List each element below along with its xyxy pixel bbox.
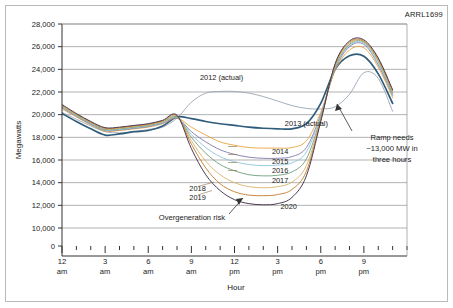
x-tick-label: 9: [189, 257, 193, 266]
ramp-needs-line2: ~13,000 MW in: [366, 144, 417, 153]
series-inline-labels: 2012 (actual)2013 (actual)20142015201620…: [189, 73, 328, 211]
y-tick-label: 28,000: [32, 20, 55, 29]
ramp-needs-annotation: Ramp needs ~13,000 MW in three hours: [335, 104, 418, 164]
x-axis-title: Hour: [227, 283, 245, 292]
axes: [62, 24, 407, 256]
x-tick-label: am: [100, 267, 111, 276]
series-line-2019: [62, 39, 393, 196]
x-axis-ticks: 12am3am6am9am12pm3pm6pm9pm: [57, 246, 407, 276]
x-tick-label: 6: [146, 257, 150, 266]
series-line-2018: [62, 40, 393, 188]
x-tick-label: pm: [229, 267, 240, 276]
chart-figure: ARRL1699 010,00012,00014,00016,00018,000…: [0, 0, 453, 308]
y-tick-label: 24,000: [32, 65, 55, 74]
series-label-2020: 2020: [281, 202, 297, 211]
y-tick-label: 14,000: [32, 178, 55, 187]
y-tick-label: 18,000: [32, 133, 55, 142]
overgeneration-risk-label: Overgeneration risk: [159, 213, 225, 222]
series-label-2013-actual-: 2013 (actual): [285, 119, 328, 128]
series-label-2018: 2018: [189, 184, 205, 193]
series-label-2019: 2019: [189, 193, 205, 202]
x-tick-label: pm: [272, 267, 283, 276]
series-label-2014: 2014: [272, 147, 288, 156]
series-label-2016: 2016: [272, 166, 288, 175]
duck-curve-chart: 010,00012,00014,00016,00018,00020,00022,…: [0, 0, 453, 308]
x-tick-label: 12: [58, 257, 66, 266]
y-tick-label: 12,000: [32, 201, 55, 210]
x-tick-label: pm: [315, 267, 326, 276]
y-tick-label: 0: [51, 242, 55, 251]
x-tick-label: 12: [230, 257, 238, 266]
y-tick-label: 10,000: [32, 224, 55, 233]
ramp-needs-line3: three hours: [373, 155, 412, 164]
y-axis-ticks: 010,00012,00014,00016,00018,00020,00022,…: [32, 20, 62, 251]
x-tick-label: am: [143, 267, 154, 276]
ramp-needs-line1: Ramp needs: [370, 133, 413, 142]
x-tick-label: 6: [319, 257, 323, 266]
series-label-2012-actual-: 2012 (actual): [200, 73, 243, 82]
y-tick-label: 20,000: [32, 110, 55, 119]
series-label-2015: 2015: [272, 157, 288, 166]
x-tick-label: 3: [276, 257, 280, 266]
series-label-2017: 2017: [272, 176, 288, 185]
y-tick-label: 16,000: [32, 156, 55, 165]
x-tick-label: 9: [362, 257, 366, 266]
y-tick-label: 22,000: [32, 88, 55, 97]
y-axis-title: Megawatts: [14, 121, 23, 160]
x-tick-label: 3: [103, 257, 107, 266]
x-tick-label: am: [186, 267, 197, 276]
y-tick-label: 26,000: [32, 42, 55, 51]
series-lines: [62, 38, 393, 205]
x-tick-label: am: [57, 267, 68, 276]
series-line-2013-actual-: [62, 54, 393, 135]
x-tick-label: pm: [359, 267, 370, 276]
